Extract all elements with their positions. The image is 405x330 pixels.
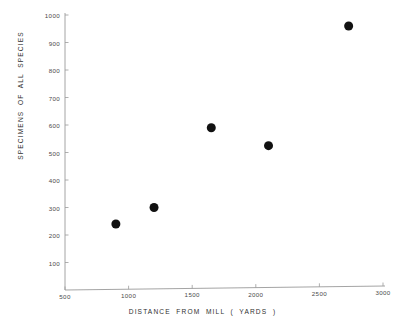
x-axis-line [65,286,385,290]
y-tick-label: 100 [24,259,60,266]
x-tick-label: 1500 [185,291,200,298]
y-axis-title: SPECIMENS OF ALL SPECIES [17,0,24,196]
scatter-plot-figure: 1002003004005006007008009001000 50010001… [0,0,405,330]
x-tick-label: 1000 [121,292,136,299]
data-point-marker [264,141,273,150]
y-tick-label: 900 [24,39,60,46]
y-tick-label: 600 [24,122,60,129]
data-markers-group [111,22,353,229]
x-axis-title: DISTANCE FROM MILL ( YARDS ) [0,308,405,315]
y-tick-label: 300 [24,204,60,211]
ticks-group [65,15,383,290]
axes-group [65,13,385,290]
data-point-marker [150,203,159,212]
x-tick-label: 2500 [312,290,327,297]
data-point-marker [111,220,120,229]
x-tick-label: 500 [59,293,70,300]
data-point-marker [207,123,216,132]
y-tick-label: 700 [24,94,60,101]
y-tick-label: 200 [24,232,60,239]
y-tick-label: 1000 [24,12,60,19]
y-tick-label: 400 [24,177,60,184]
y-tick-label: 800 [24,67,60,74]
x-tick-label: 3000 [375,289,390,296]
y-tick-label: 500 [24,149,60,156]
plot-canvas [0,0,405,330]
data-point-marker [344,22,353,31]
x-tick-label: 2000 [248,291,263,298]
